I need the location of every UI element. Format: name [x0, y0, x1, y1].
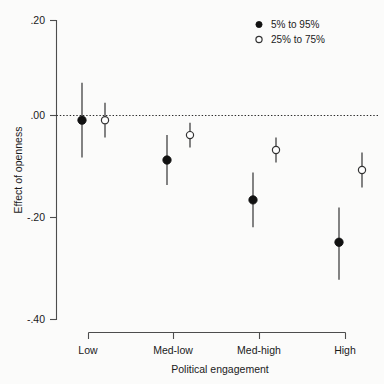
- data-point-med-high-series-1: [272, 138, 279, 163]
- data-point-med-high-series-0: [249, 172, 257, 227]
- x-tick-label-med-low: Med-low: [153, 344, 193, 356]
- data-points-layer: [78, 83, 366, 280]
- legend-label-1: 25% to 75%: [271, 34, 325, 45]
- legend: 5% to 95% 25% to 75%: [256, 19, 325, 45]
- data-point-med-low-series-1: [186, 123, 193, 148]
- x-axis: Low Med-low Med-high High Political enga…: [78, 333, 356, 376]
- x-tick-label-med-high: Med-high: [237, 344, 281, 356]
- marker-open-circle: [101, 117, 108, 124]
- marker-filled-circle: [335, 238, 343, 246]
- y-tick-label-neg020: -.20: [27, 211, 45, 223]
- data-point-high-series-0: [335, 207, 343, 279]
- y-axis: .20 .00 -.20 -.40 Effect of openness: [12, 14, 57, 325]
- marker-open-circle: [358, 166, 365, 173]
- legend-label-0: 5% to 95%: [271, 19, 319, 30]
- x-tick-label-low: Low: [78, 344, 98, 356]
- chart-figure: .20 .00 -.20 -.40 Effect of openness Low…: [0, 0, 384, 384]
- marker-open-circle: [272, 146, 279, 153]
- x-axis-title: Political engagement: [171, 363, 269, 375]
- data-point-low-series-0: [78, 83, 86, 158]
- data-point-low-series-1: [101, 103, 108, 138]
- y-tick-label-020: .20: [30, 14, 45, 26]
- marker-filled-circle: [163, 156, 171, 164]
- marker-filled-circle: [78, 116, 86, 124]
- legend-filled-circle-icon: [256, 21, 262, 27]
- effect-of-openness-scatter-plot: .20 .00 -.20 -.40 Effect of openness Low…: [0, 0, 384, 384]
- x-tick-label-high: High: [334, 344, 356, 356]
- data-point-high-series-1: [358, 153, 365, 188]
- y-axis-title: Effect of openness: [12, 127, 24, 214]
- data-point-med-low-series-0: [163, 135, 171, 185]
- y-tick-label-neg040: -.40: [27, 313, 45, 325]
- marker-open-circle: [186, 132, 193, 139]
- y-tick-label-000: .00: [30, 109, 45, 121]
- legend-open-circle-icon: [256, 36, 262, 42]
- marker-filled-circle: [249, 196, 257, 204]
